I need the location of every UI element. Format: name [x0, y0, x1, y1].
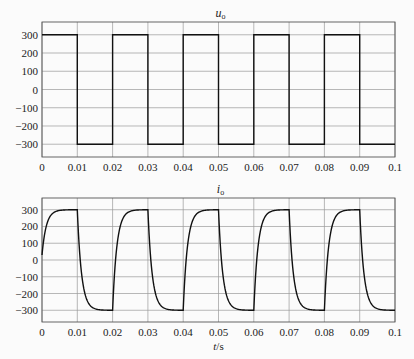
chart-title: io — [217, 182, 224, 197]
y-tick-label: −100 — [15, 102, 38, 114]
x-tick-label: 0.03 — [138, 161, 158, 173]
y-tick-label: −200 — [15, 120, 38, 132]
x-tick-label: 0 — [39, 326, 45, 338]
x-tick-label: 0.09 — [350, 326, 370, 338]
y-tick-label: −300 — [15, 138, 38, 150]
x-tick-label: 0.01 — [68, 161, 87, 173]
y-tick-label: 300 — [22, 204, 39, 216]
x-tick-label: 0.01 — [68, 326, 87, 338]
x-tick-label: 0.06 — [244, 326, 264, 338]
x-tick-label: 0.05 — [209, 161, 229, 173]
x-axis-label: t/s — [213, 340, 223, 352]
y-tick-label: 100 — [22, 237, 39, 249]
y-tick-label: 100 — [22, 65, 39, 77]
x-tick-label: 0.02 — [103, 326, 122, 338]
plot-uo: 00.010.020.030.040.050.060.070.080.090.1… — [15, 6, 402, 173]
x-tick-label: 0.07 — [279, 161, 299, 173]
y-tick-label: 0 — [33, 84, 39, 96]
chart-title: uo — [216, 6, 226, 21]
x-tick-label: 0.08 — [315, 161, 335, 173]
x-tick-label: 0.06 — [244, 161, 264, 173]
plot-io: 00.010.020.030.040.050.060.070.080.090.1… — [15, 182, 402, 352]
x-tick-label: 0.04 — [174, 326, 194, 338]
x-tick-label: 0.02 — [103, 161, 122, 173]
y-tick-label: −300 — [15, 304, 38, 316]
x-tick-label: 0.08 — [315, 326, 335, 338]
x-tick-label: 0.03 — [138, 326, 158, 338]
x-tick-label: 0.09 — [350, 161, 370, 173]
chart-canvas: 00.010.020.030.040.050.060.070.080.090.1… — [0, 0, 414, 359]
x-tick-label: 0.04 — [174, 161, 194, 173]
y-tick-label: −200 — [15, 288, 38, 300]
y-tick-label: 200 — [22, 220, 39, 232]
x-tick-label: 0.1 — [388, 161, 402, 173]
y-tick-label: 300 — [22, 29, 39, 41]
y-tick-label: 200 — [22, 47, 39, 59]
x-tick-label: 0.1 — [388, 326, 402, 338]
y-tick-label: 0 — [33, 254, 39, 266]
x-tick-label: 0.07 — [279, 326, 299, 338]
y-tick-label: −100 — [15, 271, 38, 283]
x-tick-label: 0.05 — [209, 326, 229, 338]
x-tick-label: 0 — [39, 161, 45, 173]
